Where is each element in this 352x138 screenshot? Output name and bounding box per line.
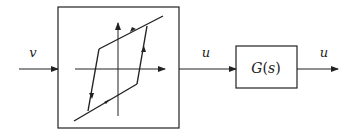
transfer-function-label: G(s)	[251, 60, 280, 76]
block-diagram: v u G(s)	[0, 0, 352, 138]
input-signal-label: v	[29, 45, 37, 60]
output-signal-label: u	[320, 45, 328, 60]
hysteresis-loop-icon	[74, 16, 165, 121]
hysteresis-block	[58, 7, 179, 128]
intermediate-signal-label: u	[202, 45, 210, 60]
